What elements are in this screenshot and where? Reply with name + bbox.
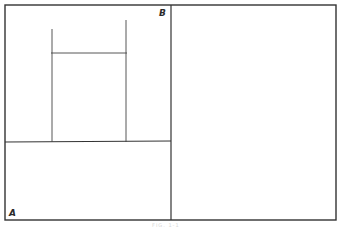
diagram-canvas: B A FIG. 1-1: [0, 0, 342, 229]
label-b: B: [159, 8, 166, 18]
label-a: A: [8, 208, 16, 218]
figure-caption: FIG. 1-1: [152, 222, 180, 228]
left-horizontal-divider: [5, 141, 171, 142]
